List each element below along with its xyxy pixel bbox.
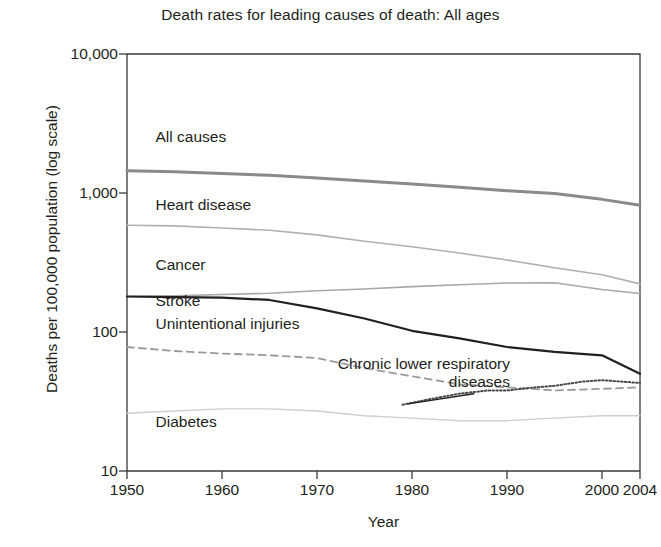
series-label-diabetes: Diabetes <box>156 413 217 431</box>
annotation-leader <box>408 394 474 404</box>
series-label-heart-disease: Heart disease <box>156 196 252 214</box>
plot-area <box>0 0 661 547</box>
chart-figure: Death rates for leading causes of death:… <box>0 0 661 547</box>
series-label-cancer: Cancer <box>156 256 206 274</box>
series-label-all-causes: All causes <box>156 128 227 146</box>
series-label-stroke: Stroke <box>156 292 201 310</box>
series-label-chronic-lower-respiratory-diseases: Chronic lower respiratory diseases <box>295 355 510 392</box>
series-label-unintentional-injuries: Unintentional injuries <box>156 315 300 333</box>
series-line-heart-disease <box>127 225 640 284</box>
series-line-cancer <box>127 283 640 297</box>
clrd-leader-line <box>408 394 474 404</box>
